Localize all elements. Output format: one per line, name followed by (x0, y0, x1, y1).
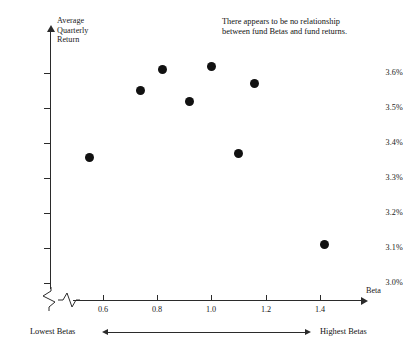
range-arrow-right-icon (305, 329, 311, 335)
data-point (158, 65, 167, 74)
scatter-points-layer (0, 0, 403, 355)
scatter-plot-figure: There appears to be no relationship betw… (0, 0, 403, 355)
data-point (234, 149, 243, 158)
highest-betas-label: Highest Betas (320, 327, 367, 337)
data-point (185, 97, 194, 106)
data-point (136, 86, 145, 95)
data-point (85, 153, 94, 162)
range-arrow-line (107, 332, 307, 333)
lowest-betas-label: Lowest Betas (30, 327, 75, 337)
data-point (250, 79, 259, 88)
data-point (320, 240, 329, 249)
data-point (207, 62, 216, 71)
beta-range-note: Lowest Betas Highest Betas (0, 326, 403, 346)
